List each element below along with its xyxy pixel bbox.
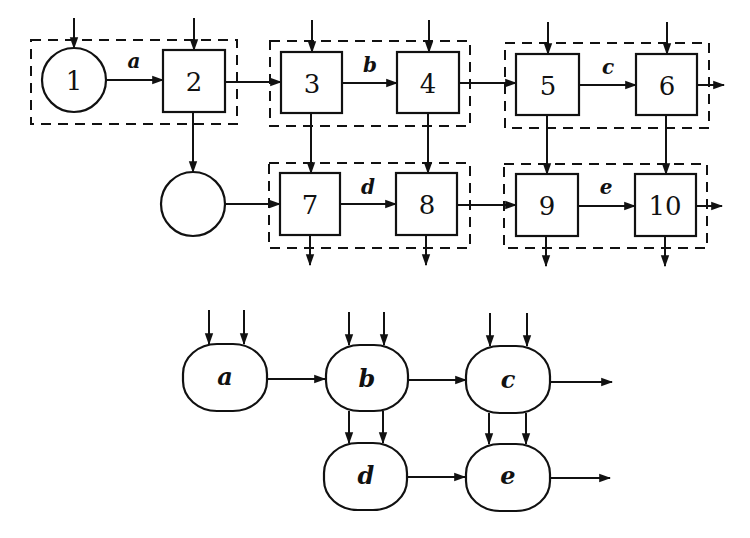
node-10: 10 [635,174,696,236]
edge-label-c: c [602,55,614,79]
lower-node-b-label: b [359,364,376,393]
node-2: 2 [163,50,225,112]
node-blank-circle [161,172,225,236]
node-8-label: 8 [419,190,436,220]
lower-node-a-label: a [217,362,233,391]
lower-node-d-label: d [358,461,375,490]
node-3-label: 3 [304,69,321,99]
node-1: 1 [42,48,106,112]
node-5: 5 [516,54,579,115]
node-8: 8 [396,173,457,235]
node-7-label: 7 [302,190,319,220]
node-10-label: 10 [648,191,681,221]
lower-node-e: e [466,444,550,511]
diagram-canvas: 1 2 3 4 5 6 7 8 [0,0,750,538]
node-7: 7 [280,173,340,235]
node-9: 9 [516,174,578,236]
node-1-label: 1 [66,66,83,96]
edge-label-e: e [600,175,613,199]
lower-node-a: a [183,344,267,411]
edge-label-d: d [361,175,375,199]
node-3: 3 [281,52,342,113]
node-4: 4 [397,52,459,113]
upper-diagram: 1 2 3 4 5 6 7 8 [31,18,724,266]
node-9-label: 9 [539,191,556,221]
lower-node-e-label: e [500,461,515,490]
node-6: 6 [636,54,697,115]
lower-node-c: c [466,346,550,413]
node-5-label: 5 [540,71,557,101]
lower-node-d: d [324,443,407,510]
node-6-label: 6 [659,71,676,101]
edge-label-b: b [363,53,377,77]
lower-node-b: b [326,345,408,411]
edge-label-a: a [128,49,141,73]
lower-node-c-label: c [501,365,516,394]
node-2-label: 2 [186,67,203,97]
lower-diagram: a b c d e [183,310,612,511]
node-4-label: 4 [420,69,437,99]
